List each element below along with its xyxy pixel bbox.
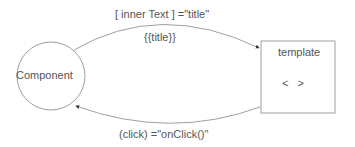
- template-content: < >: [282, 77, 304, 89]
- bottom-arrow-label: (click) ="onClick()": [119, 128, 208, 140]
- component-label: Component: [16, 69, 73, 81]
- template-label: template: [278, 46, 320, 58]
- top-arrow-label: [ inner Text ] ="title": [115, 8, 209, 20]
- top-arrow-sublabel: {{title}}: [144, 31, 176, 43]
- event-binding-arrow: [76, 106, 260, 123]
